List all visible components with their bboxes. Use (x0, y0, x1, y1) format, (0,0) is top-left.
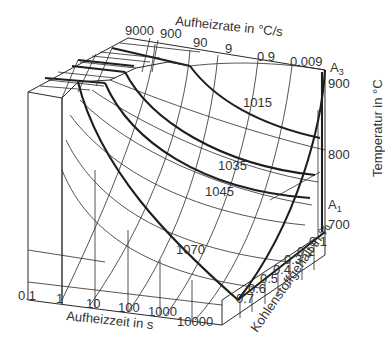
heating-time-axis-title: Aufheizzeit in s (66, 308, 155, 332)
rate-tick-9: 9 (225, 41, 232, 56)
temp-tick-900: 900 (328, 76, 350, 91)
time-tick-10: 10 (86, 296, 100, 311)
temp-tick-800: 800 (328, 147, 350, 162)
isoline-label-1015: 1015 (243, 95, 272, 110)
time-tick-10000: 10000 (177, 314, 213, 329)
temperature-axis-title: Temperatur in °C (370, 79, 385, 177)
marker-a1-letter: A (328, 197, 337, 212)
rate-tick-0.9: 0.9 (257, 49, 275, 64)
marker-a3: A3 (330, 60, 344, 77)
marker-a3-letter: A (330, 60, 339, 75)
time-tick-1: 1 (56, 291, 63, 306)
top-plateau-grid (40, 38, 200, 98)
marker-a1-sub: 1 (337, 204, 342, 214)
front-face-grid (28, 98, 222, 320)
isoline-label-1045: 1045 (205, 184, 234, 199)
time-tick-0.1: 0.1 (18, 288, 36, 303)
austenitization-3d-diagram: 1015 1035 1045 1070 Aufheizrate in °C/s … (0, 0, 385, 347)
rate-tick-9000: 9000 (125, 23, 154, 38)
heating-rate-axis-title: Aufheizrate in °C/s (175, 13, 284, 39)
rate-tick-0.009: 0.009 (290, 54, 323, 69)
marker-a1: A1 (328, 197, 342, 214)
time-tick-100: 100 (118, 300, 140, 315)
temperature-axis: A3 900 800 A1 700 Temperatur in °C (328, 60, 385, 232)
carbon-tick-0.7: 0.7 (236, 291, 254, 306)
rate-tick-90: 90 (193, 35, 207, 50)
isoline-label-1070: 1070 (176, 242, 205, 257)
isoline-label-1035: 1035 (218, 158, 247, 173)
rate-tick-900: 900 (160, 26, 182, 41)
